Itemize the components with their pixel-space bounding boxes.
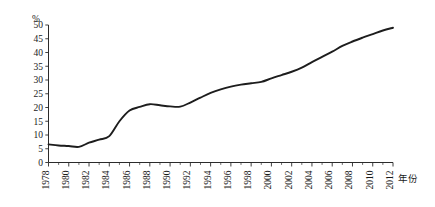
y-tick-label: 40 xyxy=(34,48,44,58)
x-tick-label: 1998 xyxy=(243,170,253,189)
y-axis-tick-labels: 05101520253035404550 xyxy=(34,20,44,168)
x-tick-label: 1980 xyxy=(61,170,71,189)
x-tick-label: 1986 xyxy=(122,170,132,189)
x-tick-label: 2006 xyxy=(324,170,334,189)
y-tick-label: 10 xyxy=(34,130,44,140)
chart-container: 05101520253035404550 1978198019821984198… xyxy=(0,0,435,207)
data-series-line xyxy=(49,28,394,147)
y-tick-label: 45 xyxy=(34,34,44,44)
x-tick-label: 1984 xyxy=(101,170,111,189)
y-tick-label: 20 xyxy=(34,103,44,113)
x-tick-label: 1990 xyxy=(162,170,172,189)
x-tick-label: 2010 xyxy=(365,170,375,189)
line-chart: 05101520253035404550 1978198019821984198… xyxy=(0,0,435,207)
y-tick-label: 25 xyxy=(34,89,44,99)
x-tick-label: 2012 xyxy=(385,170,395,189)
x-tick-label: 1988 xyxy=(142,170,152,189)
x-tick-label: 1992 xyxy=(182,170,192,189)
x-axis-tick-labels: 1978198019821984198619881990199219941996… xyxy=(41,170,396,189)
x-tick-label: 2000 xyxy=(263,170,273,189)
y-tick-label: 5 xyxy=(38,144,43,154)
y-tick-label: 35 xyxy=(34,62,44,72)
x-tick-label: 2002 xyxy=(284,170,294,189)
y-tick-label: 30 xyxy=(34,75,44,85)
x-tick-label: 2008 xyxy=(344,170,354,189)
y-tick-label: 0 xyxy=(38,158,43,168)
y-axis-unit-label: % xyxy=(32,14,40,24)
x-tick-label: 1994 xyxy=(203,170,213,189)
x-axis-title: 年份 xyxy=(398,173,418,184)
x-tick-label: 1978 xyxy=(41,170,51,189)
x-axis-ticks xyxy=(49,163,394,167)
x-tick-label: 2004 xyxy=(304,170,314,189)
x-tick-label: 1996 xyxy=(223,170,233,189)
y-tick-label: 15 xyxy=(34,117,44,127)
x-tick-label: 1982 xyxy=(81,170,91,189)
